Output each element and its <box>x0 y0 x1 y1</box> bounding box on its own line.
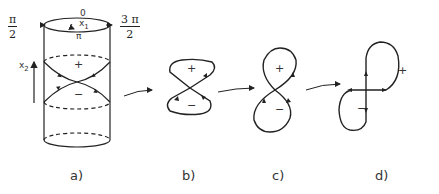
minus-sign-b: − <box>187 99 196 112</box>
label-three-pi-half: 3 π 2 <box>120 14 140 40</box>
label-x1: x1 <box>79 18 89 31</box>
label-zero: 0 <box>80 8 86 18</box>
diagram-canvas <box>0 0 439 194</box>
label-pi: π <box>76 31 81 41</box>
plus-sign-d: + <box>398 64 407 77</box>
plus-sign-a: + <box>74 58 83 71</box>
plus-sign-c: + <box>275 62 284 75</box>
panel-label-d: d) <box>375 168 388 183</box>
panel-label-b: b) <box>182 168 195 183</box>
plus-sign-b: + <box>187 62 196 75</box>
minus-sign-a: − <box>74 88 83 101</box>
label-x2: x2 <box>19 60 29 73</box>
panel-label-a: a) <box>70 168 83 183</box>
minus-sign-d: − <box>357 102 366 115</box>
label-pi-half: π 2 <box>8 14 17 40</box>
panel-label-c: c) <box>272 168 284 183</box>
minus-sign-c: − <box>275 103 284 116</box>
